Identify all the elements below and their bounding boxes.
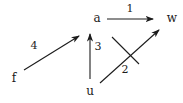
edge-label-3: 3 (95, 40, 102, 53)
edge-arrow-2 (100, 30, 159, 83)
node-label-u: u (86, 84, 94, 98)
node-label-f: f (12, 71, 18, 85)
diagram-stage: 1 2 3 4 f a u w (0, 0, 183, 103)
node-label-a: a (93, 11, 100, 25)
edge-label-4: 4 (31, 39, 38, 52)
node-label-w: w (167, 11, 178, 25)
edge-label-1: 1 (127, 2, 134, 15)
graph-diagram-canvas: 1 2 3 4 f a u w (0, 0, 183, 103)
edge-label-2: 2 (122, 63, 129, 76)
